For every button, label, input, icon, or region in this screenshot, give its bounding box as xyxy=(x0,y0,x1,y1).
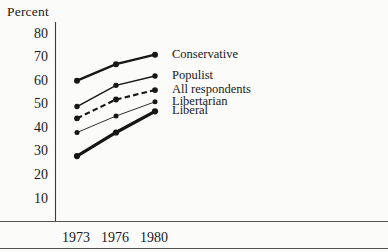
series-label-liberal: Liberal xyxy=(172,104,208,117)
series-label-conservative: Conservative xyxy=(172,48,238,61)
y-tick-label-80: 80 xyxy=(4,26,48,42)
data-point-conservative-1973 xyxy=(74,78,80,84)
y-tick-label-20: 20 xyxy=(4,167,48,183)
data-point-liberal-1980 xyxy=(152,108,158,114)
series-label-populist: Populist xyxy=(172,69,213,82)
x-tick-label-1980: 1980 xyxy=(140,231,168,245)
data-point-populist-1973 xyxy=(74,104,79,109)
data-point-all-respondents-1980 xyxy=(152,87,158,93)
y-tick-label-50: 50 xyxy=(4,96,48,112)
series-path-conservative xyxy=(77,55,155,81)
y-tick-label-10: 10 xyxy=(4,191,48,207)
data-point-all-respondents-1973 xyxy=(74,115,80,121)
series-line-populist xyxy=(74,73,157,109)
data-point-conservative-1980 xyxy=(152,52,158,58)
x-tick-label-1973: 1973 xyxy=(62,231,90,245)
x-tick-label-1976: 1976 xyxy=(101,231,129,245)
y-tick-label-70: 70 xyxy=(4,49,48,65)
chart-canvas xyxy=(0,0,388,252)
data-point-liberal-1973 xyxy=(74,153,80,159)
line-chart-figure: Percent 8070605040302010 197319761980 Co… xyxy=(0,0,388,252)
data-point-liberal-1976 xyxy=(113,129,119,135)
data-point-libertarian-1980 xyxy=(153,99,158,104)
data-point-populist-1976 xyxy=(113,83,118,88)
data-point-libertarian-1973 xyxy=(75,130,80,135)
y-tick-label-30: 30 xyxy=(4,143,48,159)
data-point-all-respondents-1976 xyxy=(113,97,119,103)
data-point-libertarian-1976 xyxy=(114,114,119,119)
y-tick-label-40: 40 xyxy=(4,120,48,136)
data-point-populist-1980 xyxy=(152,73,157,78)
data-point-conservative-1976 xyxy=(113,61,119,67)
y-tick-label-60: 60 xyxy=(4,73,48,89)
